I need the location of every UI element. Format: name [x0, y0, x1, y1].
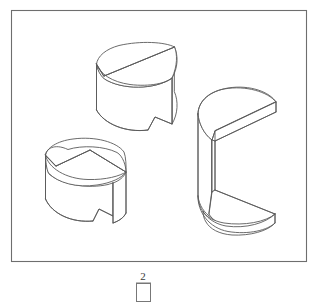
- figure-number-text: 2: [140, 270, 146, 282]
- figure-number-box: [137, 284, 151, 302]
- technical-drawing-canvas: 2: [0, 0, 318, 302]
- solid-bottom-left: [46, 138, 127, 223]
- figure-root: 2: [0, 0, 318, 302]
- solid-top-left: [97, 42, 178, 130]
- solid-right: [198, 87, 276, 235]
